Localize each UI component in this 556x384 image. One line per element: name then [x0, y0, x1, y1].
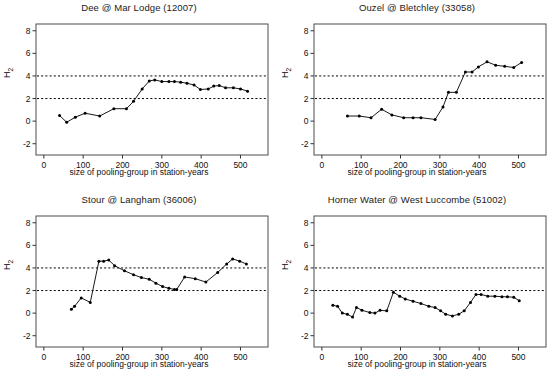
data-point [447, 91, 450, 94]
data-point [186, 82, 189, 85]
series-line [71, 259, 246, 309]
x-axis-label: size of pooling-group in station-years [278, 167, 556, 177]
data-point [112, 107, 115, 110]
data-point [412, 116, 415, 119]
y-tick-label: 6 [304, 240, 309, 250]
data-point [160, 80, 163, 83]
data-point [368, 311, 371, 314]
plot-frame [36, 216, 268, 347]
data-point [455, 91, 458, 94]
data-point [225, 263, 228, 266]
y-tick-label: 2 [304, 94, 309, 104]
data-point [380, 108, 383, 111]
data-point [341, 312, 344, 315]
data-point [480, 293, 483, 296]
data-point [175, 288, 178, 291]
data-point [148, 278, 151, 281]
data-point [167, 287, 170, 290]
panel-0: Dee @ Mar Lodge (12007) H2 -202468010020… [0, 0, 278, 192]
data-point [500, 295, 503, 298]
data-point [427, 305, 430, 308]
data-point [167, 80, 170, 83]
data-point [89, 301, 92, 304]
data-point [232, 86, 235, 89]
data-point [224, 86, 227, 89]
data-point [336, 305, 339, 308]
y-tick-label: 2 [26, 286, 31, 296]
x-axis-label: size of pooling-group in station-years [0, 167, 278, 177]
data-point [404, 298, 407, 301]
y-tick-label: 0 [26, 116, 31, 126]
data-point [73, 305, 76, 308]
data-point [102, 260, 105, 263]
data-point [132, 100, 135, 103]
panel-3: Horner Water @ West Luccombe (51002) H2 … [278, 192, 556, 384]
data-point [193, 83, 196, 86]
series-line [333, 292, 519, 317]
y-tick-label: 6 [304, 48, 309, 58]
panel-2: Stour @ Langham (36006) H2 -202468010020… [0, 192, 278, 384]
data-point [355, 306, 358, 309]
data-point [183, 275, 186, 278]
y-tick-label: 4 [26, 263, 31, 273]
data-point [207, 87, 210, 90]
data-point [161, 285, 164, 288]
data-point [434, 118, 437, 121]
data-point [471, 71, 474, 74]
plot-frame [314, 24, 546, 155]
data-point [451, 314, 454, 317]
data-point [199, 88, 202, 91]
data-point [245, 263, 248, 266]
data-point [390, 113, 393, 116]
data-point [385, 309, 388, 312]
data-point [70, 308, 73, 311]
y-tick-label: 0 [304, 308, 309, 318]
data-point [125, 107, 128, 110]
plot-area: -2024680100200300400500 [278, 0, 556, 192]
data-point [346, 313, 349, 316]
data-point [475, 293, 478, 296]
data-point [216, 271, 219, 274]
y-tick-label: 4 [304, 71, 309, 81]
data-point [373, 312, 376, 315]
series-line [347, 62, 521, 120]
data-point [493, 295, 496, 298]
data-point [477, 65, 480, 68]
data-point [179, 81, 182, 84]
data-point [153, 78, 156, 81]
data-point [238, 260, 241, 263]
y-tick-label: 6 [26, 240, 31, 250]
data-point [218, 84, 221, 87]
data-point [123, 269, 126, 272]
data-point [231, 257, 234, 260]
data-point [464, 71, 467, 74]
data-point [506, 295, 509, 298]
data-point [486, 295, 489, 298]
data-point [434, 306, 437, 309]
y-tick-label: 2 [304, 286, 309, 296]
data-point [107, 259, 110, 262]
x-axis-label: size of pooling-group in station-years [0, 359, 278, 369]
x-axis-label: size of pooling-group in station-years [278, 359, 556, 369]
data-point [419, 302, 422, 305]
figure-grid: Dee @ Mar Lodge (12007) H2 -202468010020… [0, 0, 556, 384]
data-point [154, 282, 157, 285]
data-point [80, 296, 83, 299]
y-tick-label: 8 [26, 26, 31, 36]
data-point [212, 85, 215, 88]
data-point [113, 264, 116, 267]
y-tick-label: 4 [26, 71, 31, 81]
data-point [444, 313, 447, 316]
data-point [402, 116, 405, 119]
data-point [58, 114, 61, 117]
plot-frame [36, 24, 268, 155]
panel-1: Ouzel @ Bletchley (33058) H2 -2024680100… [278, 0, 556, 192]
y-tick-label: 0 [304, 116, 309, 126]
data-point [518, 299, 521, 302]
data-point [370, 116, 373, 119]
plot-frame [314, 216, 546, 347]
y-tick-label: 6 [26, 48, 31, 58]
data-point [194, 277, 197, 280]
data-point [360, 309, 363, 312]
data-point [392, 291, 395, 294]
